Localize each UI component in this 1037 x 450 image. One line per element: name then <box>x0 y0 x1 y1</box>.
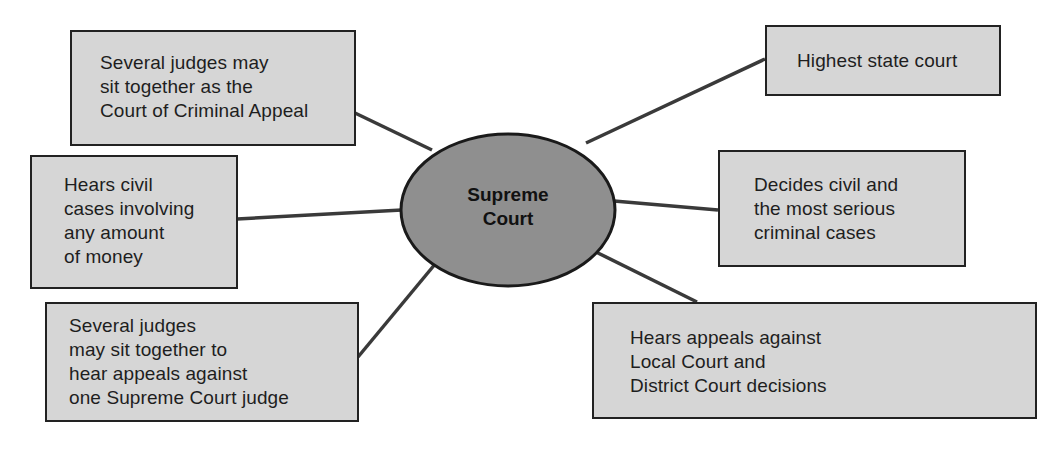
connector-criminal-appeal <box>355 113 432 150</box>
hub-label-supreme-court: Supreme Court <box>408 183 608 231</box>
node-civil-cases-money: Hears civil cases involving any amount o… <box>30 155 238 289</box>
node-civil-serious-criminal: Decides civil and the most serious crimi… <box>718 150 966 267</box>
node-highest-state-court: Highest state court <box>765 25 1001 96</box>
connector-highest-state-court <box>586 59 765 143</box>
connector-appeals-one-judge <box>358 263 436 357</box>
node-criminal-appeal: Several judges may sit together as the C… <box>70 30 356 146</box>
node-appeals-one-judge: Several judges may sit together to hear … <box>45 302 359 422</box>
connector-appeals-local-district <box>596 252 697 302</box>
connector-civil-cases-money <box>237 210 402 219</box>
connector-civil-serious-criminal <box>614 201 718 210</box>
node-appeals-local-district: Hears appeals against Local Court and Di… <box>592 302 1037 419</box>
